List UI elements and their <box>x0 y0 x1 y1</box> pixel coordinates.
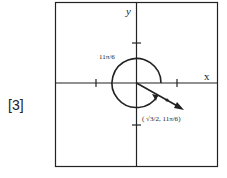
ray <box>137 83 182 108</box>
point-marker <box>165 98 168 101</box>
angle-label: 11π/6 <box>99 53 115 61</box>
y-axis-label: y <box>125 5 131 17</box>
polar-diagram: y x 11π/6 ( √3/2, 11π/6) <box>0 0 227 178</box>
x-axis-label: x <box>204 70 210 82</box>
ray-arrowhead-icon <box>174 102 184 110</box>
point-label: ( √3/2, 11π/6) <box>142 115 181 123</box>
